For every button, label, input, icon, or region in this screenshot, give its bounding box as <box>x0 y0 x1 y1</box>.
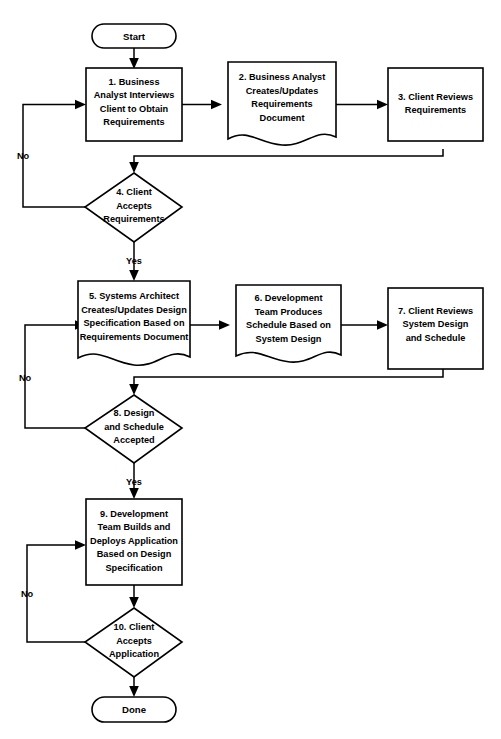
step10-line-1: 10. Client <box>114 622 155 632</box>
flowchart-svg: Start 1. Business Analyst Interviews Cli… <box>0 0 501 739</box>
connector-step4-no-to-step1 <box>23 100 86 207</box>
step5-line-4: Requirements Document <box>80 332 189 342</box>
connector-step10-to-done <box>129 677 139 697</box>
node-step1[interactable]: 1. Business Analyst Interviews Client to… <box>86 68 182 141</box>
node-step3[interactable]: 3. Client Reviews Requirements <box>388 68 483 141</box>
step6-line-3: Schedule Based on <box>246 320 331 330</box>
node-step8[interactable]: 8. Design and Schedule Accepted <box>85 395 182 463</box>
step1-line-1: 1. Business <box>108 77 159 87</box>
step9-line-2: Team Builds and <box>98 522 171 532</box>
connector-step9-to-step10 <box>129 585 139 608</box>
start-label: Start <box>123 31 146 42</box>
step1-line-3: Client to Obtain <box>100 104 169 114</box>
edge-label-yes-1: Yes <box>126 256 142 266</box>
connector-step1-to-step2 <box>182 100 222 110</box>
connector-step7-to-step8 <box>129 369 443 395</box>
connector-step3-to-step4 <box>129 149 443 173</box>
node-step6[interactable]: 6. Development Team Produces Schedule Ba… <box>236 285 341 362</box>
step3-line-2: Requirements <box>405 105 466 115</box>
node-step5[interactable]: 5. Systems Architect Creates/Updates Des… <box>78 281 190 365</box>
step10-line-2: Accepts <box>116 636 152 646</box>
node-step4[interactable]: 4. Client Accepts Requirements <box>85 173 182 242</box>
step6-line-1: 6. Development <box>255 293 323 303</box>
step1-line-2: Analyst Interviews <box>94 90 175 100</box>
step7-line-3: and Schedule <box>406 333 466 343</box>
step3-line-1: 3. Client Reviews <box>398 92 473 102</box>
step6-line-4: System Design <box>256 334 322 344</box>
connector-step6-to-step7 <box>341 320 388 330</box>
step8-line-1: 8. Design <box>114 408 155 418</box>
node-step9[interactable]: 9. Development Team Builds and Deploys A… <box>86 499 182 585</box>
step1-line-4: Requirements <box>103 117 164 127</box>
step8-line-2: and Schedule <box>104 422 164 432</box>
step7-line-2: System Design <box>403 319 469 329</box>
step2-line-4: Document <box>260 113 305 123</box>
step5-line-1: 5. Systems Architect <box>89 291 179 301</box>
step9-line-5: Specification <box>105 563 163 573</box>
edge-label-yes-2: Yes <box>126 477 142 487</box>
connector-step2-to-step3 <box>336 100 388 110</box>
edge-label-no-2: No <box>19 373 32 383</box>
step9-line-4: Based on Design <box>97 549 172 559</box>
step4-line-1: 4. Client <box>116 187 152 197</box>
step2-line-3: Requirements <box>251 99 312 109</box>
step4-line-2: Accepts <box>116 201 152 211</box>
step4-line-3: Requirements <box>103 214 164 224</box>
step2-line-2: Creates/Updates <box>246 86 319 96</box>
step8-line-3: Accepted <box>113 435 154 445</box>
edge-label-no-3: No <box>21 589 34 599</box>
connector-start-to-step1 <box>129 48 139 69</box>
connector-step10-no-to-step9 <box>27 540 86 642</box>
node-done[interactable]: Done <box>92 697 176 722</box>
done-label: Done <box>122 704 146 715</box>
connector-step5-to-step6 <box>190 320 230 330</box>
step6-line-2: Team Produces <box>255 307 323 317</box>
node-step2[interactable]: 2. Business Analyst Creates/Updates Requ… <box>228 62 336 145</box>
step10-line-3: Application <box>109 649 159 659</box>
step9-line-1: 9. Development <box>100 509 168 519</box>
node-step10[interactable]: 10. Client Accepts Application <box>85 608 182 677</box>
edge-label-no-1: No <box>17 151 30 161</box>
node-start[interactable]: Start <box>92 24 176 48</box>
step5-line-3: Specification Based on <box>83 318 184 328</box>
step9-line-3: Deploys Application <box>90 536 178 546</box>
connector-step8-no-to-step5 <box>25 320 86 428</box>
flowchart-canvas: Start 1. Business Analyst Interviews Cli… <box>0 0 501 739</box>
step5-line-2: Creates/Updates Design <box>81 305 187 315</box>
step7-line-1: 7. Client Reviews <box>398 306 473 316</box>
step2-line-1: 2. Business Analyst <box>239 72 325 82</box>
node-step7[interactable]: 7. Client Reviews System Design and Sche… <box>388 288 483 369</box>
